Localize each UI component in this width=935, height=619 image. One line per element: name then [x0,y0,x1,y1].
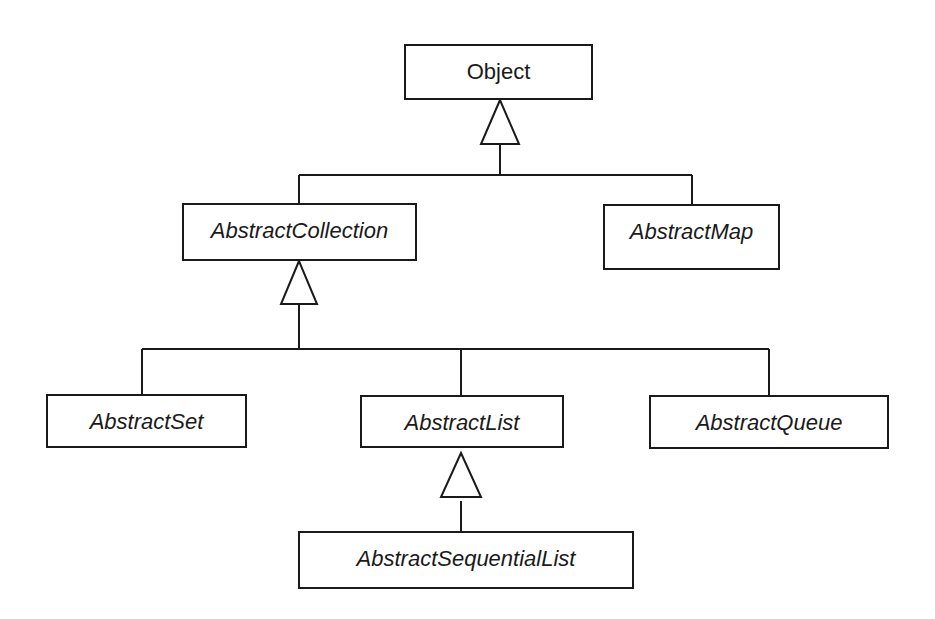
class-name: Object [406,59,591,85]
class-name: AbstractQueue [651,410,887,436]
class-box-abstract-set[interactable]: AbstractSet [46,394,247,448]
class-box-abstract-sequential-list[interactable]: AbstractSequentialList [298,531,634,589]
class-name: AbstractCollection [184,218,415,244]
class-name: AbstractSequentialList [300,546,632,572]
class-name: AbstractSet [48,409,245,435]
class-name: AbstractList [362,410,562,436]
class-box-abstract-list[interactable]: AbstractList [360,395,564,448]
class-box-abstract-queue[interactable]: AbstractQueue [649,395,889,449]
class-box-object[interactable]: Object [404,44,593,100]
generalization-arrow-abstract-collection [281,261,317,304]
class-box-abstract-map[interactable]: AbstractMap [603,204,780,270]
generalization-arrow-abstract-list [441,453,481,497]
class-name: AbstractMap [605,219,778,245]
generalization-arrow-object [481,100,519,144]
class-box-abstract-collection[interactable]: AbstractCollection [182,203,417,261]
